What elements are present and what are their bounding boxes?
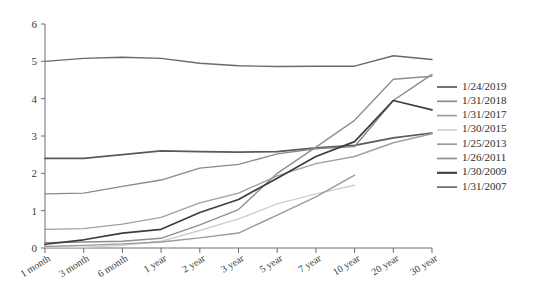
legend-item[interactable]: 1/25/2013 xyxy=(437,137,507,149)
y-axis: 0123456 xyxy=(32,18,46,254)
series-line-1-31-2018 xyxy=(45,74,432,193)
legend-item[interactable]: 1/30/2009 xyxy=(437,165,507,177)
y-tick-label: 6 xyxy=(32,18,38,30)
series-line-1-25-2013 xyxy=(45,175,355,246)
y-tick-label: 0 xyxy=(32,242,38,254)
legend-label: 1/30/2015 xyxy=(462,122,507,134)
legend-label: 1/31/2017 xyxy=(462,108,507,120)
x-tick-label: 3 month xyxy=(57,252,91,279)
x-tick-label: 2 year xyxy=(180,252,207,275)
x-axis: 1 month3 month6 month1 year2 year3 year5… xyxy=(18,248,439,279)
y-tick-label: 5 xyxy=(32,55,38,67)
series-line-1-30-2009 xyxy=(45,101,432,245)
legend: 1/24/20191/31/20181/31/20171/30/20151/25… xyxy=(437,80,507,192)
series-group xyxy=(45,56,432,248)
x-tick-label: 5 year xyxy=(257,252,284,275)
legend-item[interactable]: 1/26/2011 xyxy=(437,151,506,163)
x-tick-label: 6 month xyxy=(96,252,130,279)
legend-item[interactable]: 1/31/2018 xyxy=(437,94,507,106)
legend-item[interactable]: 1/24/2019 xyxy=(437,80,507,92)
x-tick-label: 1 year xyxy=(141,252,168,275)
x-tick-label: 20 year xyxy=(369,252,401,277)
legend-label: 1/25/2013 xyxy=(462,137,507,149)
legend-item[interactable]: 1/31/2017 xyxy=(437,108,507,120)
y-tick-label: 3 xyxy=(32,130,38,142)
series-line-1-31-2007 xyxy=(45,56,432,67)
legend-item[interactable]: 1/30/2015 xyxy=(437,122,507,134)
series-line-1-24-2019 xyxy=(45,133,432,158)
legend-label: 1/30/2009 xyxy=(462,165,507,177)
legend-label: 1/26/2011 xyxy=(462,151,506,163)
y-tick-label: 4 xyxy=(32,93,38,105)
x-tick-label: 10 year xyxy=(331,252,363,277)
yield-curve-chart: 01234561 month3 month6 month1 year2 year… xyxy=(0,0,541,301)
chart-canvas: 01234561 month3 month6 month1 year2 year… xyxy=(0,0,541,301)
x-tick-label: 1 month xyxy=(18,252,52,279)
legend-label: 1/31/2007 xyxy=(462,180,507,192)
legend-item[interactable]: 1/31/2007 xyxy=(437,180,507,192)
x-tick-label: 3 year xyxy=(219,252,246,275)
legend-label: 1/24/2019 xyxy=(462,80,507,92)
x-tick-label: 7 year xyxy=(296,252,323,275)
y-tick-label: 2 xyxy=(32,167,38,179)
y-tick-label: 1 xyxy=(32,205,38,217)
series-line-1-31-2017 xyxy=(45,134,432,230)
legend-label: 1/31/2018 xyxy=(462,94,507,106)
x-tick-label: 30 year xyxy=(408,252,440,277)
series-line-1-26-2011 xyxy=(45,76,432,243)
